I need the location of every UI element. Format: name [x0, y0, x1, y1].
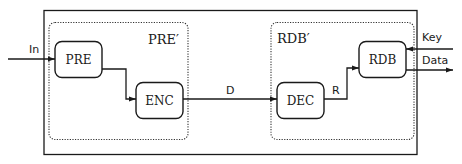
- enc-block-label: ENC: [145, 94, 173, 108]
- r-signal-label: R: [332, 84, 340, 97]
- pre-block-label: PRE: [66, 53, 92, 67]
- rdb-prime-label: RDB′: [277, 31, 310, 46]
- rdb-block-label: RDB: [369, 53, 397, 67]
- dec-to-rdb-arrow: [324, 68, 359, 99]
- d-signal-label: D: [226, 84, 234, 97]
- data-label: Data: [422, 54, 448, 67]
- block-diagram: PRE′ RDB′ PRE ENC DEC RDB In D R Key Dat…: [0, 0, 462, 164]
- pre-to-enc-arrow: [102, 69, 136, 99]
- dec-block-label: DEC: [287, 94, 315, 108]
- input-label: In: [29, 43, 39, 56]
- pre-prime-label: PRE′: [148, 32, 179, 47]
- key-label: Key: [422, 31, 442, 44]
- outer-system-box: [44, 11, 417, 155]
